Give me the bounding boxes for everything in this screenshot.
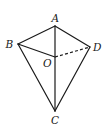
- label-d: D: [92, 41, 102, 53]
- label-o: O: [43, 57, 52, 69]
- geometry-diagram: A B D O C: [0, 0, 111, 135]
- edge-ad: [55, 26, 90, 47]
- label-c: C: [51, 114, 59, 126]
- edges: [18, 26, 90, 111]
- edge-ab: [18, 26, 55, 44]
- edge-bc: [18, 44, 55, 111]
- label-a: A: [51, 12, 60, 24]
- label-b: B: [5, 38, 14, 50]
- edge-dc: [55, 47, 90, 111]
